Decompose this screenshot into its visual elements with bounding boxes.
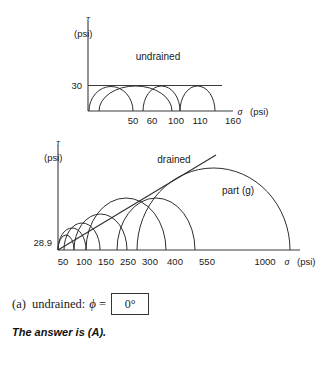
answer-item-tag: (a): [12, 297, 26, 312]
drained-x-tick-5: 400: [167, 256, 183, 267]
drained-mohr-circle-4: [74, 214, 127, 250]
drained-y-tick-28-9: 28.9: [34, 237, 53, 248]
drained-x-tick-1: 100: [76, 256, 92, 267]
drained-part-g-annotation: part (g): [222, 185, 254, 196]
drained-x-axis-symbol: σ: [285, 256, 291, 267]
answer-row-a: (a) undrained: ϕ = 0°: [12, 293, 322, 315]
chart-undrained: 30 τ (psi) σ (psi) undrained 50 60 100 1…: [71, 13, 268, 126]
drained-x-tick-3: 250: [120, 256, 136, 267]
drained-y-axis-unit: (psi): [44, 152, 62, 163]
answer-item-text: undrained:: [32, 297, 85, 312]
drained-x-axis-unit: (psi): [297, 256, 315, 267]
undrained-mohr-circle-1: [89, 86, 133, 111]
drained-x-tick-7: 1000: [254, 256, 275, 267]
drained-x-tick-0: 50: [58, 256, 69, 267]
drained-mohr-circle-6: [117, 198, 195, 250]
drained-x-tick-2: 150: [98, 256, 114, 267]
equals-symbol: =: [99, 297, 106, 312]
drained-mohr-circle-5: [86, 198, 166, 250]
undrained-mohr-circle-4: [180, 86, 215, 111]
drained-x-tick-6: 550: [199, 256, 215, 267]
drained-x-tick-4: 300: [142, 256, 158, 267]
undrained-x-tick-2: 100: [168, 115, 184, 126]
undrained-y-tick-30: 30: [71, 80, 82, 91]
solution-page: 30 τ (psi) σ (psi) undrained 50 60 100 1…: [0, 0, 330, 369]
undrained-x-tick-1: 60: [147, 115, 158, 126]
drained-y-axis-symbol: τ: [56, 137, 60, 148]
undrained-mohr-circle-2: [99, 86, 172, 111]
phi-symbol: ϕ: [89, 296, 96, 312]
drained-mohr-circle-1: [58, 235, 74, 250]
final-answer-text: The answer is (A).: [12, 326, 322, 338]
drained-mohr-circle-3: [64, 223, 100, 250]
undrained-y-axis-symbol: τ: [86, 13, 90, 24]
drained-failure-envelope: [58, 155, 216, 250]
drained-mohr-circle-2: [58, 228, 86, 250]
drained-chart-title: drained: [157, 154, 190, 165]
undrained-x-axis-symbol: σ: [238, 106, 244, 117]
undrained-mohr-circle-3: [143, 86, 180, 111]
answer-section: (a) undrained: ϕ = 0° The answer is (A).: [12, 293, 322, 338]
drained-mohr-circle-7: [137, 168, 290, 250]
undrained-x-tick-3: 110: [192, 115, 207, 126]
undrained-y-axis-unit: (psi): [74, 28, 92, 39]
mohr-diagrams-svg: 30 τ (psi) σ (psi) undrained 50 60 100 1…: [0, 0, 330, 290]
undrained-x-axis-unit: (psi): [250, 106, 268, 117]
undrained-chart-title: undrained: [136, 51, 180, 62]
undrained-x-tick-0: 50: [128, 115, 139, 126]
chart-drained: 28.9 τ (psi) σ (psi) drained part (g) 50…: [34, 137, 316, 267]
undrained-x-tick-4: 160: [225, 115, 241, 126]
answer-value-box[interactable]: 0°: [111, 293, 149, 315]
